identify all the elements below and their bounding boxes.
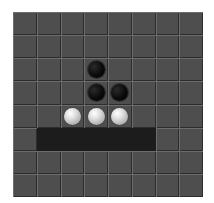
board-cell[interactable] [13, 105, 37, 128]
board-cell[interactable] [156, 81, 180, 104]
board-cell[interactable] [156, 174, 180, 197]
board-cell[interactable] [156, 128, 180, 151]
board-cell[interactable] [13, 128, 37, 151]
board-cell[interactable] [13, 12, 37, 35]
board-cell[interactable] [13, 81, 37, 104]
black-piece-icon [111, 84, 128, 101]
board-cell[interactable] [156, 151, 180, 174]
board-cell[interactable] [156, 58, 180, 81]
board-cell[interactable] [179, 81, 203, 104]
board-cell[interactable] [132, 81, 156, 104]
board-cell[interactable] [156, 12, 180, 35]
board-cell[interactable] [108, 105, 132, 128]
board-cell[interactable] [179, 12, 203, 35]
board-cell[interactable] [132, 58, 156, 81]
board-cell-highlighted[interactable] [132, 128, 156, 151]
board-cell[interactable] [132, 151, 156, 174]
board-cell[interactable] [179, 128, 203, 151]
board-cell[interactable] [132, 105, 156, 128]
board-cell[interactable] [179, 58, 203, 81]
board-cell[interactable] [37, 105, 61, 128]
board-cell[interactable] [84, 81, 108, 104]
board-cell[interactable] [37, 12, 61, 35]
board-cell[interactable] [132, 35, 156, 58]
board-cell[interactable] [84, 12, 108, 35]
board-cell-highlighted[interactable] [108, 128, 132, 151]
white-piece-icon [111, 108, 128, 125]
board-cell[interactable] [61, 105, 85, 128]
white-piece-icon [88, 108, 105, 125]
board-cell[interactable] [37, 81, 61, 104]
black-piece-icon [88, 84, 105, 101]
board-cell[interactable] [37, 35, 61, 58]
board-cell[interactable] [61, 58, 85, 81]
board-cell[interactable] [61, 151, 85, 174]
board-cell[interactable] [13, 151, 37, 174]
board-cell[interactable] [108, 12, 132, 35]
board-cell[interactable] [179, 151, 203, 174]
board-cell[interactable] [61, 174, 85, 197]
board-cell-highlighted[interactable] [37, 128, 61, 151]
board-cell-highlighted[interactable] [61, 128, 85, 151]
board-cell[interactable] [84, 35, 108, 58]
white-piece-icon [64, 108, 81, 125]
board-cell[interactable] [61, 12, 85, 35]
board-cell[interactable] [61, 81, 85, 104]
board-cell[interactable] [37, 174, 61, 197]
board-cell[interactable] [37, 151, 61, 174]
board-cell[interactable] [108, 174, 132, 197]
board-cell[interactable] [156, 105, 180, 128]
board-cell[interactable] [156, 35, 180, 58]
game-board [13, 12, 203, 197]
board-cell-highlighted[interactable] [84, 128, 108, 151]
black-piece-icon [88, 61, 105, 78]
board-cell[interactable] [132, 174, 156, 197]
board-cell[interactable] [108, 81, 132, 104]
board-cell[interactable] [13, 35, 37, 58]
board-cell[interactable] [84, 174, 108, 197]
board-cell[interactable] [132, 12, 156, 35]
board-cell[interactable] [84, 58, 108, 81]
board-cell[interactable] [108, 151, 132, 174]
board-cell[interactable] [179, 174, 203, 197]
board-cell[interactable] [37, 58, 61, 81]
board-cell[interactable] [61, 35, 85, 58]
board-cell[interactable] [108, 35, 132, 58]
board-cell[interactable] [84, 151, 108, 174]
board-cell[interactable] [84, 105, 108, 128]
board-cell[interactable] [179, 35, 203, 58]
board-cell[interactable] [13, 174, 37, 197]
board-cell[interactable] [108, 58, 132, 81]
board-cell[interactable] [179, 105, 203, 128]
board-cell[interactable] [13, 58, 37, 81]
